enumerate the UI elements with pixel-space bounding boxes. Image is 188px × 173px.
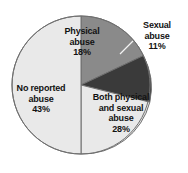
slice-label-physical-abuse-percent: 18% xyxy=(46,47,118,58)
slice-label-physical-abuse: Physical abuse 18% xyxy=(46,26,118,58)
slice-label-physical-abuse-line2: abuse xyxy=(46,37,118,48)
slice-label-both-line2: and sexual xyxy=(84,103,158,114)
slice-label-both-line3: abuse xyxy=(84,113,158,124)
slice-label-no-reported-abuse-percent: 43% xyxy=(8,104,74,115)
slice-label-both-percent: 28% xyxy=(84,124,158,135)
slice-label-sexual-abuse-line2: abuse xyxy=(128,31,186,42)
slice-label-sexual-abuse: Sexual abuse 11% xyxy=(128,20,186,52)
slice-label-physical-abuse-line1: Physical xyxy=(46,26,118,37)
pie-chart: Physical abuse 18% Sexual abuse 11% Both… xyxy=(0,0,188,173)
slice-label-sexual-abuse-line1: Sexual xyxy=(128,20,186,31)
slice-label-sexual-abuse-percent: 11% xyxy=(128,41,186,52)
slice-label-both-line1: Both physical xyxy=(84,92,158,103)
slice-label-both-physical-and-sexual-abuse: Both physical and sexual abuse 28% xyxy=(84,92,158,134)
slice-label-no-reported-abuse-line2: abuse xyxy=(8,94,74,105)
slice-label-no-reported-abuse: No reported abuse 43% xyxy=(8,83,74,115)
slice-label-no-reported-abuse-line1: No reported xyxy=(8,83,74,94)
